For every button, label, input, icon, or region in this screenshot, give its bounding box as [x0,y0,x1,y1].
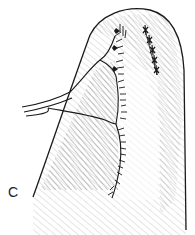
anatomical-illustration: C [0,0,195,235]
panel-label: C [8,185,18,199]
flap-drawing [0,0,195,235]
